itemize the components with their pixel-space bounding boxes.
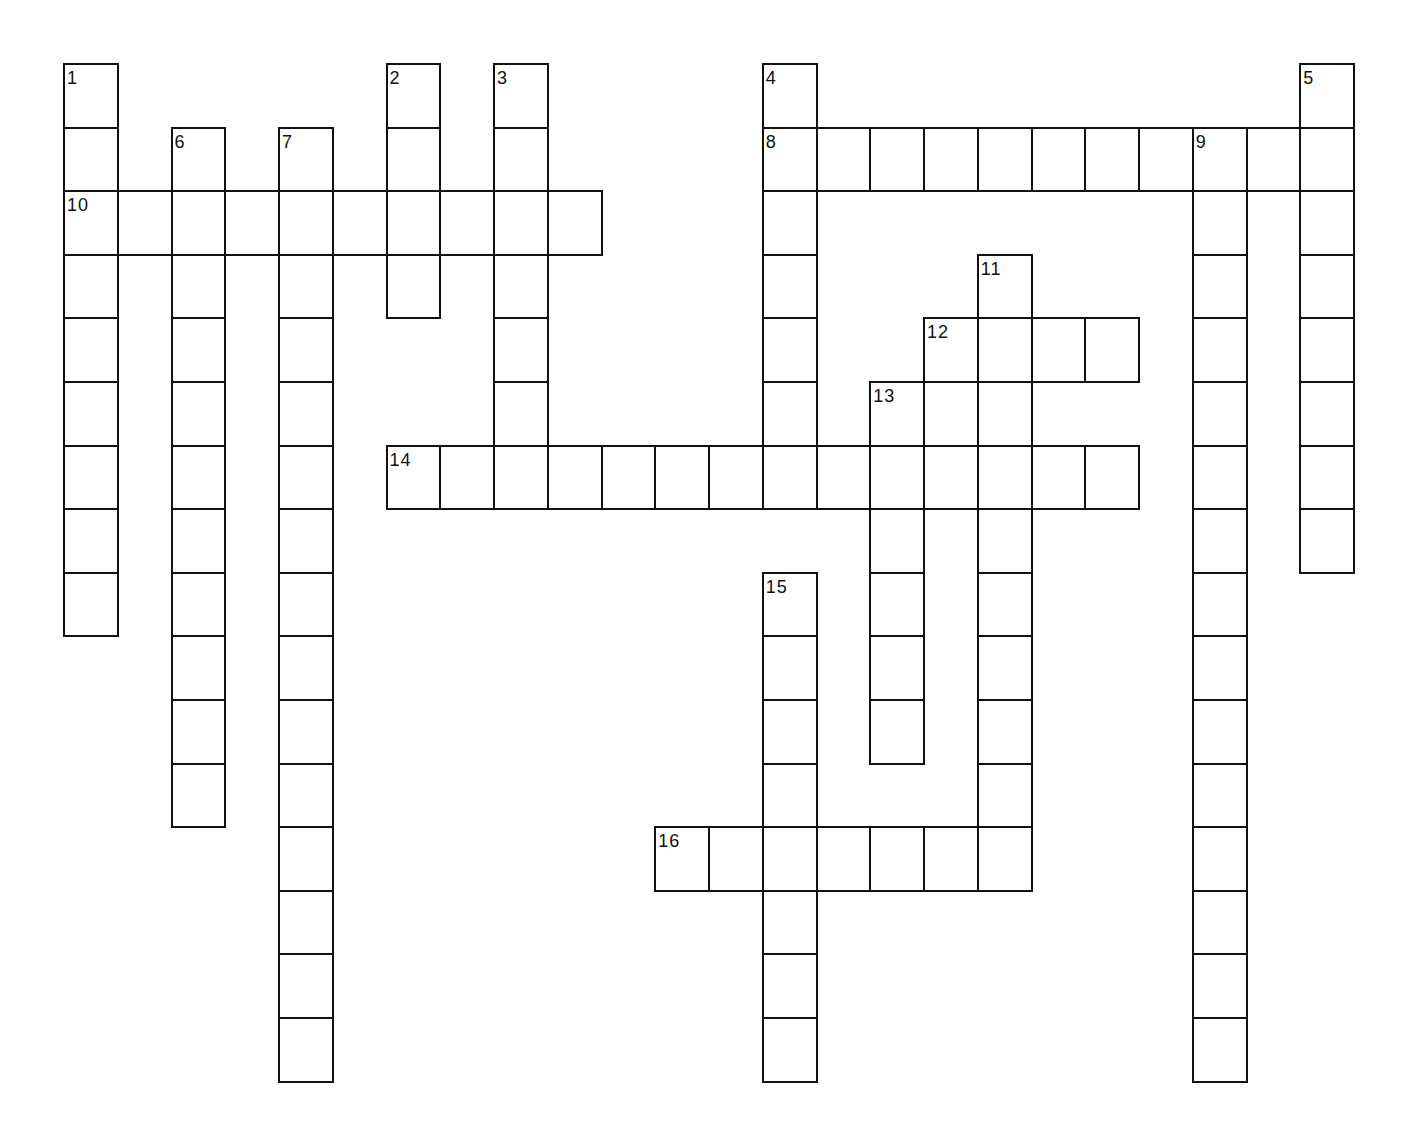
crossword-cell[interactable] (1192, 445, 1248, 511)
crossword-cell[interactable] (762, 317, 818, 383)
crossword-cell[interactable] (278, 190, 334, 256)
crossword-cell[interactable] (762, 381, 818, 447)
crossword-cell[interactable] (63, 445, 119, 511)
crossword-cell[interactable] (1084, 445, 1140, 511)
crossword-cell[interactable] (1192, 254, 1248, 320)
crossword-cell[interactable] (171, 508, 227, 574)
crossword-cell[interactable] (278, 1017, 334, 1083)
crossword-cell[interactable] (439, 190, 495, 256)
crossword-cell[interactable] (1192, 826, 1248, 892)
crossword-cell[interactable] (977, 127, 1033, 193)
crossword-cell[interactable] (977, 317, 1033, 383)
crossword-cell[interactable]: 13 (869, 381, 925, 447)
crossword-cell[interactable] (869, 445, 925, 511)
crossword-cell[interactable] (1299, 317, 1355, 383)
crossword-cell[interactable] (63, 508, 119, 574)
crossword-cell[interactable] (762, 445, 818, 511)
crossword-cell[interactable]: 8 (762, 127, 818, 193)
crossword-cell[interactable] (386, 254, 442, 320)
crossword-cell[interactable] (1192, 953, 1248, 1019)
crossword-cell[interactable] (1084, 127, 1140, 193)
crossword-cell[interactable] (386, 127, 442, 193)
crossword-cell[interactable] (762, 254, 818, 320)
crossword-cell[interactable] (1192, 381, 1248, 447)
crossword-cell[interactable] (977, 699, 1033, 765)
crossword-cell[interactable] (278, 890, 334, 956)
crossword-cell[interactable] (977, 635, 1033, 701)
crossword-cell[interactable] (869, 635, 925, 701)
crossword-cell[interactable] (1192, 699, 1248, 765)
crossword-cell[interactable] (1192, 635, 1248, 701)
crossword-cell[interactable]: 1 (63, 63, 119, 129)
crossword-cell[interactable] (762, 190, 818, 256)
crossword-cell[interactable] (923, 445, 979, 511)
crossword-cell[interactable] (869, 826, 925, 892)
crossword-cell[interactable] (1299, 254, 1355, 320)
crossword-cell[interactable] (386, 190, 442, 256)
crossword-cell[interactable] (977, 508, 1033, 574)
crossword-cell[interactable] (762, 635, 818, 701)
crossword-cell[interactable] (816, 127, 872, 193)
crossword-cell[interactable] (601, 445, 657, 511)
crossword-cell[interactable]: 9 (1192, 127, 1248, 193)
crossword-cell[interactable] (816, 445, 872, 511)
crossword-cell[interactable] (493, 445, 549, 511)
crossword-cell[interactable] (762, 699, 818, 765)
crossword-cell[interactable] (439, 445, 495, 511)
crossword-cell[interactable] (762, 763, 818, 829)
crossword-cell[interactable]: 10 (63, 190, 119, 256)
crossword-cell[interactable] (1246, 127, 1302, 193)
crossword-cell[interactable] (1192, 190, 1248, 256)
crossword-cell[interactable] (977, 381, 1033, 447)
crossword-cell[interactable] (977, 572, 1033, 638)
crossword-cell[interactable] (278, 635, 334, 701)
crossword-cell[interactable] (1299, 127, 1355, 193)
crossword-cell[interactable] (278, 317, 334, 383)
crossword-cell[interactable] (708, 445, 764, 511)
crossword-cell[interactable]: 11 (977, 254, 1033, 320)
crossword-cell[interactable] (493, 381, 549, 447)
crossword-cell[interactable] (923, 826, 979, 892)
crossword-cell[interactable] (224, 190, 280, 256)
crossword-cell[interactable] (63, 317, 119, 383)
crossword-cell[interactable] (1192, 508, 1248, 574)
crossword-cell[interactable] (1031, 127, 1087, 193)
crossword-cell[interactable] (762, 953, 818, 1019)
crossword-cell[interactable] (1192, 763, 1248, 829)
crossword-cell[interactable] (171, 763, 227, 829)
crossword-cell[interactable] (869, 572, 925, 638)
crossword-cell[interactable] (1192, 1017, 1248, 1083)
crossword-cell[interactable] (63, 572, 119, 638)
crossword-cell[interactable] (1031, 445, 1087, 511)
crossword-cell[interactable] (869, 699, 925, 765)
crossword-cell[interactable] (869, 127, 925, 193)
crossword-cell[interactable]: 3 (493, 63, 549, 129)
crossword-cell[interactable] (1299, 445, 1355, 511)
crossword-cell[interactable] (493, 190, 549, 256)
crossword-cell[interactable] (654, 445, 710, 511)
crossword-cell[interactable] (762, 890, 818, 956)
crossword-cell[interactable]: 7 (278, 127, 334, 193)
crossword-cell[interactable]: 12 (923, 317, 979, 383)
crossword-cell[interactable] (278, 572, 334, 638)
crossword-cell[interactable] (493, 317, 549, 383)
crossword-cell[interactable] (278, 699, 334, 765)
crossword-cell[interactable] (1138, 127, 1194, 193)
crossword-cell[interactable] (278, 763, 334, 829)
crossword-cell[interactable]: 15 (762, 572, 818, 638)
crossword-cell[interactable] (1031, 317, 1087, 383)
crossword-cell[interactable] (332, 190, 388, 256)
crossword-cell[interactable] (278, 445, 334, 511)
crossword-cell[interactable] (1084, 317, 1140, 383)
crossword-cell[interactable] (171, 445, 227, 511)
crossword-cell[interactable] (171, 190, 227, 256)
crossword-cell[interactable] (171, 635, 227, 701)
crossword-cell[interactable] (762, 1017, 818, 1083)
crossword-cell[interactable] (977, 763, 1033, 829)
crossword-cell[interactable] (493, 127, 549, 193)
crossword-cell[interactable] (762, 826, 818, 892)
crossword-cell[interactable]: 5 (1299, 63, 1355, 129)
crossword-cell[interactable]: 4 (762, 63, 818, 129)
crossword-cell[interactable] (63, 254, 119, 320)
crossword-cell[interactable] (493, 254, 549, 320)
